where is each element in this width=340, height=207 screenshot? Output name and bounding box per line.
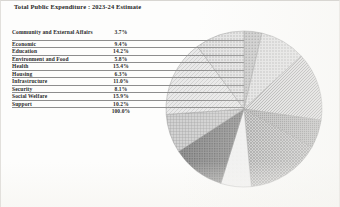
- expenditure-table-container: Community and External Affairs3.7%Econom…: [1, 25, 340, 115]
- percent-value: 15.9%: [95, 93, 147, 100]
- row-rule-extension: [147, 48, 244, 55]
- table-row: Economic9.4%: [12, 41, 244, 48]
- percent-value: 3.7%: [95, 25, 147, 41]
- category-label: Support: [12, 100, 95, 107]
- percent-value: 15.4%: [95, 63, 147, 70]
- category-label: Infrastructure: [12, 78, 95, 85]
- percent-value: 9.4%: [95, 41, 147, 48]
- category-label: Community and External Affairs: [12, 25, 95, 41]
- row-rule-extension: [147, 55, 244, 62]
- total-row-spacer: [147, 108, 244, 115]
- expenditure-table: Community and External Affairs3.7%Econom…: [12, 25, 244, 115]
- table-row: Support10.2%: [12, 100, 244, 107]
- percent-value: 14.2%: [95, 48, 147, 55]
- category-label: Environment and Food: [12, 55, 95, 62]
- percent-value: 6.3%: [95, 70, 147, 77]
- table-row: Housing6.3%: [12, 70, 244, 77]
- row-rule-extension: [147, 41, 244, 48]
- percent-value: 5.8%: [95, 55, 147, 62]
- category-label: Education: [12, 48, 95, 55]
- row-rule-extension: [147, 70, 244, 77]
- category-label: Economic: [12, 41, 95, 48]
- category-label: Health: [12, 63, 95, 70]
- table-row: Security8.1%: [12, 85, 244, 92]
- table-row: Environment and Food5.8%: [12, 55, 244, 62]
- table-total-row: 100.0%: [12, 108, 244, 115]
- row-rule-extension: [147, 25, 244, 41]
- percent-value: 10.2%: [95, 100, 147, 107]
- table-row: Education14.2%: [12, 48, 244, 55]
- category-label: Housing: [12, 70, 95, 77]
- row-rule-extension: [147, 93, 244, 100]
- table-row: Community and External Affairs3.7%: [12, 25, 244, 41]
- category-label: Social Welfare: [12, 93, 95, 100]
- row-rule-extension: [147, 63, 244, 70]
- table-row: Health15.4%: [12, 63, 244, 70]
- row-rule-extension: [147, 78, 244, 85]
- row-rule-extension: [147, 85, 244, 92]
- row-rule-extension: [147, 100, 244, 107]
- page-title: Total Public Expenditure : 2023-24 Estim…: [14, 3, 141, 10]
- category-label: Security: [12, 85, 95, 92]
- table-row: Social Welfare15.9%: [12, 93, 244, 100]
- total-value: 100.0%: [95, 108, 147, 115]
- percent-value: 11.0%: [95, 78, 147, 85]
- document-page: Total Public Expenditure : 2023-24 Estim…: [0, 0, 340, 207]
- table-row: Infrastructure11.0%: [12, 78, 244, 85]
- expenditure-table-body: Community and External Affairs3.7%Econom…: [12, 25, 244, 115]
- percent-value: 8.1%: [95, 85, 147, 92]
- total-label: [12, 108, 95, 115]
